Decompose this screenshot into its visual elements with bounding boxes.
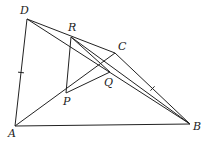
segment-RB	[71, 37, 190, 124]
point-label-P: P	[62, 95, 71, 108]
segment-AB	[15, 124, 190, 126]
point-label-Q: Q	[104, 76, 113, 89]
point-label-B: B	[192, 120, 201, 133]
point-label-R: R	[67, 21, 76, 34]
segment-DB	[27, 19, 190, 124]
geometry-diagram: DRCPQAB	[0, 0, 213, 142]
point-label-C: C	[118, 40, 127, 53]
equal-mark-DA	[18, 72, 24, 73]
point-label-D: D	[19, 4, 29, 17]
segment-AC	[15, 53, 115, 126]
segment-RQ	[71, 37, 110, 72]
point-label-A: A	[7, 127, 16, 140]
